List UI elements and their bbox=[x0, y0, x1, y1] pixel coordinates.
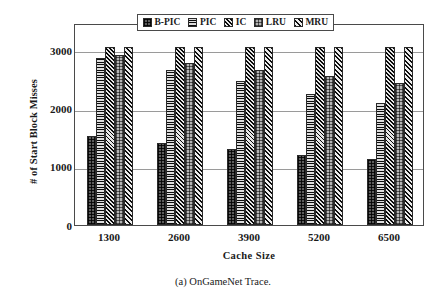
bar-pic-6500 bbox=[376, 103, 385, 225]
legend-item-b-pic[interactable]: B-PIC bbox=[143, 18, 180, 28]
bar-ic-6500 bbox=[385, 47, 394, 225]
legend-item-pic[interactable]: PIC bbox=[188, 18, 216, 28]
bar-b-pic-1300 bbox=[87, 136, 96, 225]
legend-swatch-icon bbox=[294, 18, 303, 27]
legend-label: MRU bbox=[305, 18, 328, 28]
legend-label: LRU bbox=[266, 18, 286, 28]
bar-mru-1300 bbox=[124, 47, 133, 225]
bar-b-pic-3900 bbox=[227, 149, 236, 225]
bar-group bbox=[285, 25, 355, 225]
x-axis-title: Cache Size bbox=[74, 250, 424, 261]
bar-pic-3900 bbox=[236, 81, 245, 225]
bar-mru-2600 bbox=[194, 47, 203, 225]
legend-item-lru[interactable]: LRU bbox=[254, 18, 286, 28]
bar-lru-5200 bbox=[325, 76, 334, 225]
legend: B-PICPICICLRUMRU bbox=[137, 14, 334, 31]
plot-area bbox=[74, 24, 424, 226]
bar-lru-1300 bbox=[115, 55, 124, 225]
x-tick-label: 2600 bbox=[149, 231, 209, 243]
legend-swatch-icon bbox=[188, 18, 197, 27]
legend-label: IC bbox=[236, 18, 247, 28]
bar-pic-5200 bbox=[306, 94, 315, 225]
bar-group bbox=[355, 25, 425, 225]
y-axis-tick-labels: 0100020003000 bbox=[26, 0, 72, 297]
legend-swatch-icon bbox=[254, 18, 263, 27]
bar-pic-2600 bbox=[166, 70, 175, 225]
legend-label: B-PIC bbox=[155, 18, 181, 28]
legend-swatch-icon bbox=[143, 18, 152, 27]
y-tick-label: 0 bbox=[30, 221, 72, 232]
bar-group bbox=[75, 25, 145, 225]
x-tick-label: 6500 bbox=[359, 231, 419, 243]
bar-b-pic-2600 bbox=[157, 143, 166, 225]
legend-swatch-icon bbox=[224, 18, 233, 27]
legend-item-mru[interactable]: MRU bbox=[294, 18, 328, 28]
bars-layer bbox=[75, 25, 423, 225]
x-tick-label: 3900 bbox=[219, 231, 279, 243]
bar-ic-1300 bbox=[105, 47, 114, 225]
y-tick-label: 3000 bbox=[30, 46, 72, 57]
bar-lru-2600 bbox=[185, 63, 194, 225]
bar-b-pic-6500 bbox=[367, 159, 376, 225]
y-tick-label: 1000 bbox=[30, 162, 72, 173]
figure-ongamenet-trace: # of Start Block Misses 0100020003000 13… bbox=[0, 0, 446, 297]
legend-item-ic[interactable]: IC bbox=[224, 18, 246, 28]
y-tick-label: 2000 bbox=[30, 104, 72, 115]
bar-mru-5200 bbox=[334, 47, 343, 225]
x-axis-tick-labels: 13002600390052006500 bbox=[74, 231, 424, 247]
bar-mru-6500 bbox=[404, 47, 413, 225]
bar-mru-3900 bbox=[264, 47, 273, 225]
x-tick-label: 5200 bbox=[289, 231, 349, 243]
bar-group bbox=[145, 25, 215, 225]
bar-ic-5200 bbox=[315, 47, 324, 225]
bar-ic-3900 bbox=[245, 47, 254, 225]
bar-b-pic-5200 bbox=[297, 155, 306, 225]
figure-caption: (a) OnGameNet Trace. bbox=[0, 276, 446, 287]
legend-label: PIC bbox=[200, 18, 216, 28]
bar-group bbox=[215, 25, 285, 225]
bar-pic-1300 bbox=[96, 58, 105, 225]
bar-lru-3900 bbox=[255, 70, 264, 225]
bar-ic-2600 bbox=[175, 47, 184, 225]
bar-lru-6500 bbox=[395, 83, 404, 225]
x-tick-label: 1300 bbox=[79, 231, 139, 243]
